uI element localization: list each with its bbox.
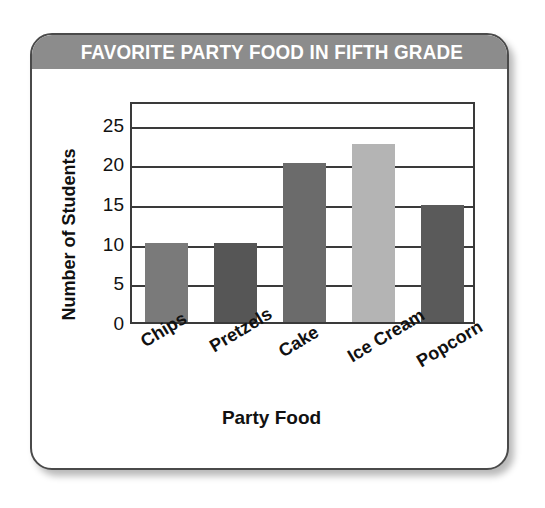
bars-group	[132, 104, 473, 322]
x-axis-title: Party Food	[32, 407, 509, 429]
chart-area: Number of Students 0510152025 ChipsPretz…	[32, 69, 509, 470]
y-tick-label-25: 25	[80, 115, 124, 137]
chart-title: FAVORITE PARTY FOOD IN FIFTH GRADE	[80, 40, 462, 64]
chart-title-banner: FAVORITE PARTY FOOD IN FIFTH GRADE	[32, 35, 509, 69]
bar-ice-cream	[352, 144, 395, 322]
y-tick-label-20: 20	[80, 154, 124, 176]
x-tick-label-cake: Cake	[275, 322, 323, 362]
bar-pretzels	[214, 243, 257, 322]
chart-card: FAVORITE PARTY FOOD IN FIFTH GRADE Numbe…	[30, 33, 509, 470]
y-tick-label-10: 10	[80, 234, 124, 256]
bar-cake	[283, 163, 326, 322]
y-tick-label-15: 15	[80, 194, 124, 216]
plot-area	[130, 102, 475, 324]
y-axis-tick-labels: 0510152025	[76, 102, 124, 324]
y-tick-label-0: 0	[80, 313, 124, 335]
x-axis-tick-labels: ChipsPretzelsCakeIce CreamPopcorn	[130, 324, 475, 404]
y-tick-label-5: 5	[80, 273, 124, 295]
bar-popcorn	[421, 205, 464, 322]
